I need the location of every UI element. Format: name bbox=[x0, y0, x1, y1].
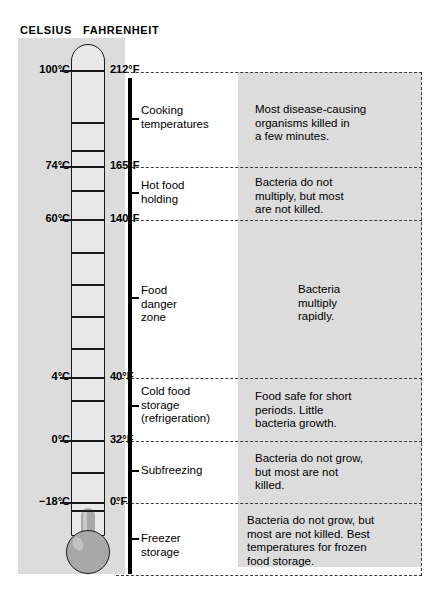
zone-label-cold-food-storage: Cold food storage (refrigeration) bbox=[141, 385, 210, 426]
description-cooking-temperatures: Most disease-causing organisms killed in… bbox=[255, 103, 366, 144]
fahrenheit-column-header: FAHRENHEIT bbox=[83, 24, 159, 36]
description-hot-food-holding: Bacteria do not multiply, but most are n… bbox=[255, 176, 344, 217]
tube-segment-line bbox=[71, 472, 105, 474]
scale-fahrenheit-140: 140°F bbox=[110, 212, 139, 224]
scale-fahrenheit-165: 165°F bbox=[110, 159, 139, 171]
scale-tick-left bbox=[60, 166, 71, 168]
boundary-line-140f bbox=[116, 220, 422, 221]
scale-tick-left bbox=[60, 502, 71, 504]
boundary-line-bottom bbox=[116, 575, 422, 576]
boundary-line-0f bbox=[116, 503, 422, 504]
scale-tick-left bbox=[60, 70, 71, 72]
tube-segment-line bbox=[71, 502, 105, 504]
scale-tick-left bbox=[60, 440, 71, 442]
zone-bracket-tick bbox=[132, 297, 139, 299]
scale-fahrenheit-0: 0°F bbox=[110, 495, 127, 507]
scale-fahrenheit-212: 212°F bbox=[110, 63, 139, 75]
thermometer-bulb bbox=[66, 530, 110, 574]
zone-bracket-tick bbox=[132, 470, 139, 472]
description-subfreezing: Bacteria do not grow, but most are not k… bbox=[255, 452, 363, 493]
thermometer-tube bbox=[71, 44, 105, 536]
scale-celsius-60: 60°C bbox=[18, 212, 70, 224]
zone-indicator-bar bbox=[128, 78, 132, 574]
temperature-chart: CELSIUS FAHRENHEIT 100°C 212°F 74°C 165°… bbox=[0, 0, 444, 596]
scale-celsius-100: 100°C bbox=[18, 63, 70, 75]
zone-bracket-tick bbox=[132, 538, 139, 540]
scale-tick-left bbox=[60, 219, 71, 221]
tube-segment-line bbox=[71, 190, 105, 192]
zone-bracket-tick bbox=[132, 405, 139, 407]
tube-segment-line bbox=[71, 400, 105, 402]
zone-bracket-tick bbox=[132, 192, 139, 194]
tube-segment-line bbox=[71, 150, 105, 152]
scale-tick-left bbox=[60, 377, 71, 379]
zone-label-hot-food-holding: Hot food holding bbox=[141, 179, 184, 206]
zone-label-freezer-storage: Freezer storage bbox=[141, 532, 181, 559]
tube-segment-line bbox=[71, 166, 105, 168]
tube-segment-line bbox=[71, 377, 105, 379]
zone-label-food-danger-zone: Food danger zone bbox=[141, 284, 177, 325]
tube-segment-line bbox=[71, 440, 105, 442]
tube-segment-line bbox=[71, 510, 105, 512]
zone-label-cooking-temperatures: Cooking temperatures bbox=[141, 104, 209, 131]
scale-celsius-minus18: −18°C bbox=[18, 495, 70, 507]
boundary-line-40f bbox=[116, 378, 422, 379]
tube-segment-line bbox=[71, 284, 105, 286]
boundary-line-165f bbox=[116, 167, 422, 168]
panel-right-dashed-edge bbox=[421, 72, 422, 576]
tube-segment-line bbox=[71, 70, 105, 72]
zone-label-subfreezing: Subfreezing bbox=[141, 464, 202, 478]
tube-segment-line bbox=[71, 219, 105, 221]
zone-bracket-tick bbox=[132, 118, 139, 120]
scale-celsius-0: 0°C bbox=[18, 433, 70, 445]
description-cold-food-storage: Food safe for short periods. Little bact… bbox=[255, 390, 352, 431]
boundary-line-32f bbox=[116, 441, 422, 442]
scale-celsius-4: 4°C bbox=[18, 370, 70, 382]
scale-celsius-74: 74°C bbox=[18, 159, 70, 171]
description-freezer-storage: Bacteria do not grow, but most are not k… bbox=[247, 514, 374, 568]
description-food-danger-zone: Bacteria multiply rapidly. bbox=[298, 283, 340, 324]
tube-segment-line bbox=[71, 316, 105, 318]
tube-segment-line bbox=[71, 252, 105, 254]
boundary-line-212f bbox=[116, 72, 422, 73]
tube-segment-line bbox=[71, 122, 105, 124]
tube-segment-line bbox=[71, 348, 105, 350]
celsius-column-header: CELSIUS bbox=[20, 24, 72, 36]
